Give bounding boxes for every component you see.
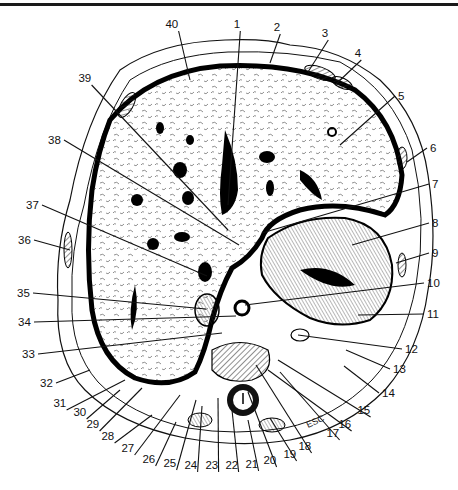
label-21: 21 [245,458,258,470]
label-23: 23 [205,459,218,471]
label-27: 27 [121,442,134,454]
label-25: 25 [163,457,176,469]
leader-line-32 [56,370,90,383]
label-29: 29 [86,418,99,430]
label-12: 12 [405,343,418,355]
label-33: 33 [22,348,35,360]
label-28: 28 [101,430,114,442]
cross-section-illustration: ESC 123456789101112131415161718192021222… [0,0,458,490]
leader-line-2 [270,34,280,63]
label-18: 18 [298,440,311,452]
label-11: 11 [427,308,439,320]
leader-line-14 [344,366,379,393]
leader-line-13 [346,350,390,369]
label-9: 9 [432,247,438,259]
label-7: 7 [432,178,438,190]
label-17: 17 [326,427,339,439]
label-14: 14 [382,387,395,399]
label-10: 10 [427,277,440,289]
label-8: 8 [432,217,438,229]
label-38: 38 [48,134,61,146]
label-3: 3 [322,27,328,39]
label-19: 19 [283,448,296,460]
label-15: 15 [357,404,370,416]
label-37: 37 [26,199,39,211]
label-13: 13 [393,363,406,375]
label-4: 4 [355,47,362,59]
vertebral-region [188,294,309,432]
label-24: 24 [184,459,197,471]
label-26: 26 [142,453,155,465]
label-30: 30 [73,406,86,418]
leader-line-12 [298,335,402,349]
label-6: 6 [430,142,436,154]
label-1: 1 [234,18,240,30]
label-40: 40 [165,18,178,30]
label-22: 22 [225,459,238,471]
label-20: 20 [263,454,276,466]
label-34: 34 [18,316,31,328]
stomach [261,218,392,325]
label-31: 31 [53,397,66,409]
anatomical-figure: ESC 123456789101112131415161718192021222… [0,0,458,490]
label-35: 35 [17,287,30,299]
label-5: 5 [398,90,404,102]
label-32: 32 [40,377,53,389]
label-36: 36 [18,234,31,246]
label-39: 39 [78,72,91,84]
label-16: 16 [338,418,351,430]
label-2: 2 [274,21,280,33]
